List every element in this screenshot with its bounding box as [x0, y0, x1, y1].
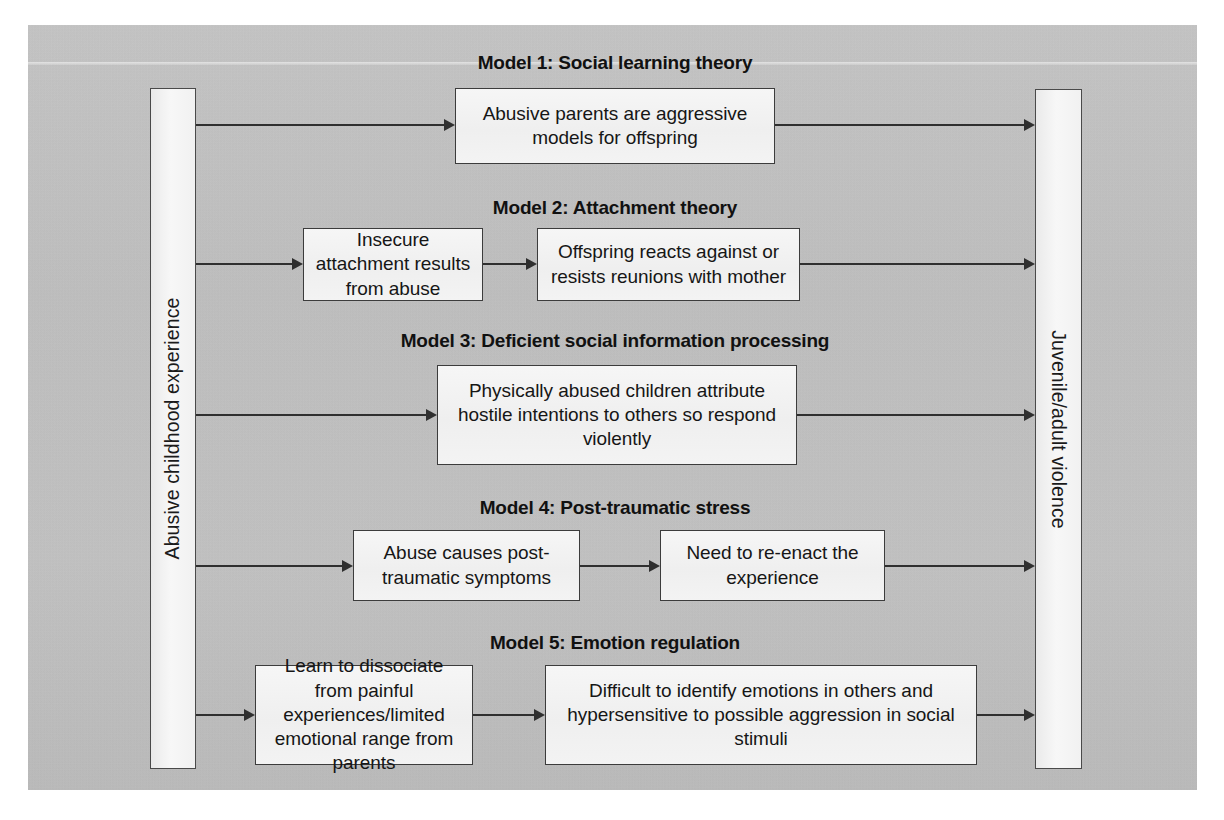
model-4-step-1-text: Abuse causes post-traumatic symptoms — [362, 541, 571, 590]
arrowhead-m3-into-box1 — [426, 409, 437, 421]
connector-m3-left — [196, 414, 426, 416]
arrowhead-m1-into-box1 — [444, 119, 455, 131]
arrowhead-m3-into-right-bar — [1024, 409, 1035, 421]
model-2-step-1-text: Insecure attachment results from abuse — [312, 228, 474, 301]
model-4-step-2-box: Need to re-enact the experience — [660, 530, 885, 601]
arrowhead-m2-into-box1 — [292, 258, 303, 270]
juvenile-adult-violence-label: Juvenile/adult violence — [1047, 330, 1070, 529]
connector-m2-right — [800, 263, 1024, 265]
connector-m1-right — [775, 124, 1024, 126]
connector-m1-left — [196, 124, 444, 126]
connector-m4-middle — [580, 565, 649, 567]
arrowhead-m4-into-right-bar — [1024, 560, 1035, 572]
model-4-title: Model 4: Post-traumatic stress — [480, 497, 751, 519]
arrowhead-m4-into-box1 — [342, 560, 353, 572]
model-3-step-1-text: Physically abused children attribute hos… — [446, 379, 788, 452]
connector-m5-middle — [473, 714, 534, 716]
model-3-step-1-box: Physically abused children attribute hos… — [437, 365, 797, 465]
model-2-step-2-text: Offspring reacts against or resists reun… — [546, 240, 791, 289]
model-3-title: Model 3: Deficient social information pr… — [401, 330, 830, 352]
arrowhead-m5-into-box1 — [244, 709, 255, 721]
juvenile-adult-violence-bar: Juvenile/adult violence — [1035, 89, 1082, 769]
connector-m2-middle — [483, 263, 526, 265]
model-2-step-1-box: Insecure attachment results from abuse — [303, 228, 483, 301]
model-5-step-2-text: Difficult to identify emotions in others… — [554, 679, 968, 752]
arrowhead-m5-into-right-bar — [1024, 709, 1035, 721]
connector-m5-right — [977, 714, 1024, 716]
connector-m4-left — [196, 565, 342, 567]
model-2-step-2-box: Offspring reacts against or resists reun… — [537, 228, 800, 301]
arrowhead-m5-into-box2 — [534, 709, 545, 721]
arrowhead-m2-into-right-bar — [1024, 258, 1035, 270]
arrowhead-m4-into-box2 — [649, 560, 660, 572]
connector-m4-right — [885, 565, 1024, 567]
model-4-step-2-text: Need to re-enact the experience — [669, 541, 876, 590]
connector-m5-left — [196, 714, 244, 716]
model-5-step-2-box: Difficult to identify emotions in others… — [545, 665, 977, 765]
connector-m3-right — [797, 414, 1024, 416]
figure-canvas: Abusive childhood experience Juvenile/ad… — [0, 0, 1224, 820]
abusive-childhood-experience-label: Abusive childhood experience — [162, 298, 185, 560]
model-1-title: Model 1: Social learning theory — [478, 52, 753, 74]
model-5-step-1-box: Learn to dissociate from painful experie… — [255, 665, 473, 765]
model-5-title: Model 5: Emotion regulation — [490, 632, 740, 654]
connector-m2-left — [196, 263, 292, 265]
model-1-step-1-box: Abusive parents are aggressive models fo… — [455, 88, 775, 164]
model-5-step-1-text: Learn to dissociate from painful experie… — [264, 654, 464, 776]
model-2-title: Model 2: Attachment theory — [493, 197, 737, 219]
abusive-childhood-experience-bar: Abusive childhood experience — [150, 88, 196, 769]
arrowhead-m1-into-right-bar — [1024, 119, 1035, 131]
model-1-step-1-text: Abusive parents are aggressive models fo… — [464, 102, 766, 151]
model-4-step-1-box: Abuse causes post-traumatic symptoms — [353, 530, 580, 601]
arrowhead-m2-into-box2 — [526, 258, 537, 270]
